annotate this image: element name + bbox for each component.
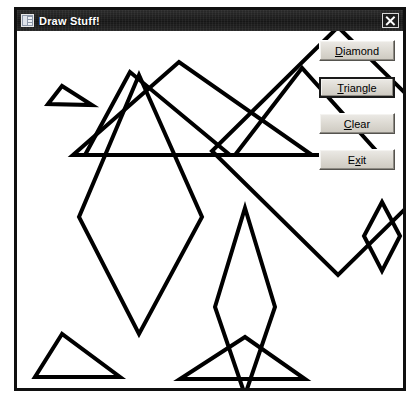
close-icon [385,16,396,26]
close-button[interactable] [382,13,399,28]
exit-button[interactable]: Exit [319,149,395,170]
triangle-bottom-mid [180,337,305,379]
exit-button-label: Exit [348,154,366,166]
title-bar[interactable]: Draw Stuff! [17,10,403,31]
diamond-button[interactable]: Diamond [319,40,395,61]
triangle-button-label: Triangle [337,82,376,94]
triangle-top-left [48,86,92,105]
triangle-bottom-left [35,334,120,377]
diamond-narrow-mid [215,208,275,388]
clear-button[interactable]: Clear [319,113,395,134]
application-window: Draw Stuff! Diamond Triangle Clear Exit [14,7,406,391]
triangle-button[interactable]: Triangle [319,77,395,98]
diamond-button-label: Diamond [335,45,379,57]
application-icon [21,14,34,27]
canvas-area: Diamond Triangle Clear Exit [17,31,403,388]
clear-button-label: Clear [344,118,370,130]
window-title: Draw Stuff! [39,15,100,27]
diamond-small-right [364,202,400,271]
